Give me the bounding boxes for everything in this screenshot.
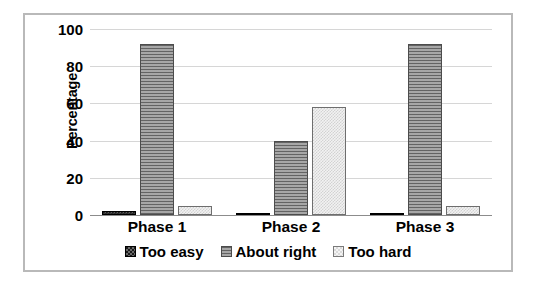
y-axis-tick-label: 80 [66,58,83,75]
legend-swatch-too-hard-icon [333,246,344,257]
legend-label: About right [236,243,317,260]
bar-phase-1-about-right [140,44,174,215]
bar-phase-2-about-right [274,141,308,215]
bar-phase-1-too-hard [178,206,212,215]
x-axis-label-phase-2: Phase 2 [262,218,321,236]
plot-area: 020406080100 [90,29,492,215]
chart-legend: Too easyAbout rightToo hard [25,243,511,260]
bar-phase-2-too-easy [236,213,270,215]
legend-swatch-about-right-icon [221,246,232,257]
bar-phase-3-too-easy [370,213,404,215]
legend-item-too-easy[interactable]: Too easy [125,243,204,260]
y-axis-tick-label: 60 [66,95,83,112]
x-axis-label-phase-1: Phase 1 [128,218,187,236]
bar-series-layer [90,29,492,215]
legend-label: Too easy [140,243,204,260]
bar-phase-1-too-easy [102,211,136,215]
legend-label: Too hard [348,243,411,260]
legend-item-too-hard[interactable]: Too hard [333,243,411,260]
legend-item-about-right[interactable]: About right [221,243,317,260]
gridline [90,215,492,216]
y-axis-tick-label: 0 [75,207,83,224]
x-axis-category-labels: Phase 1Phase 2Phase 3 [90,218,492,242]
bar-phase-3-too-hard [446,206,480,215]
y-axis-tick-label: 100 [58,21,83,38]
y-axis-tick-label: 40 [66,132,83,149]
chart-frame: Percentage 020406080100 Phase 1Phase 2Ph… [23,13,513,272]
x-axis-label-phase-3: Phase 3 [396,218,455,236]
bar-phase-2-too-hard [312,107,346,215]
legend-swatch-too-easy-icon [125,246,136,257]
y-axis-tick-label: 20 [66,169,83,186]
bar-phase-3-about-right [408,44,442,215]
